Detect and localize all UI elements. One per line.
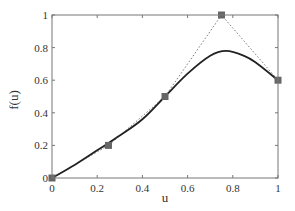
control-point-marker <box>162 93 169 100</box>
x-axis-label: u <box>162 190 169 205</box>
x-tick-label: 0.8 <box>226 182 240 194</box>
y-tick-label: 0.4 <box>34 107 48 119</box>
y-tick-label: 1 <box>43 9 49 21</box>
chart: 00.20.40.60.8100.20.40.60.81 u f(u) <box>0 0 295 211</box>
x-tick-label: 1 <box>275 182 281 194</box>
y-tick-label: 0 <box>43 172 49 184</box>
curve-line <box>52 51 278 178</box>
control-point-markers <box>49 12 282 182</box>
y-tick-label: 0.2 <box>34 139 48 151</box>
x-tick-label: 0.6 <box>181 182 195 194</box>
x-tick-label: 0 <box>49 182 55 194</box>
x-tick-label: 0.4 <box>136 182 150 194</box>
y-tick-label: 0.6 <box>34 74 48 86</box>
y-axis-label: f(u) <box>6 90 21 110</box>
control-point-marker <box>105 142 112 149</box>
plot-area: 00.20.40.60.8100.20.40.60.81 u f(u) <box>0 0 295 211</box>
x-tick-label: 0.2 <box>90 182 104 194</box>
y-tick-label: 0.8 <box>34 42 48 54</box>
